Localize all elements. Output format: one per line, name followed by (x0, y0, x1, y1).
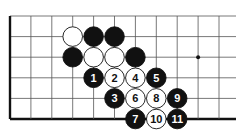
white-stone-icon (84, 47, 104, 67)
move-number: 10 (150, 113, 162, 125)
black-stone-icon (63, 47, 83, 67)
move-number: 5 (153, 72, 159, 84)
black-stone-icon (84, 27, 104, 47)
black-stone (105, 27, 125, 47)
white-stone-move-6: 6 (126, 89, 146, 109)
black-stone-move-9: 9 (167, 89, 187, 109)
black-stone-move-11: 11 (167, 109, 187, 129)
star-points (196, 55, 200, 59)
move-number: 1 (91, 72, 97, 84)
white-stone (84, 47, 104, 67)
move-number: 3 (111, 92, 117, 104)
white-stone-move-4: 4 (126, 68, 146, 88)
black-stone (84, 27, 104, 47)
black-stone-move-7: 7 (126, 109, 146, 129)
go-board: 1234567891011 (0, 0, 246, 137)
black-stone-move-1: 1 (84, 68, 104, 88)
white-stone-icon (63, 27, 83, 47)
black-stone-move-5: 5 (147, 68, 167, 88)
move-number: 9 (174, 92, 180, 104)
white-stone-move-10: 10 (147, 109, 167, 129)
black-stone-move-3: 3 (105, 89, 125, 109)
move-number: 8 (153, 92, 159, 104)
white-stone-move-8: 8 (147, 89, 167, 109)
move-number: 11 (171, 113, 183, 125)
white-stone (105, 47, 125, 67)
black-stone (126, 47, 146, 67)
black-stone (63, 47, 83, 67)
white-stone-move-2: 2 (105, 68, 125, 88)
move-number: 6 (132, 92, 138, 104)
white-stone-icon (105, 47, 125, 67)
black-stone-icon (105, 27, 125, 47)
move-number: 7 (132, 113, 138, 125)
star-point-icon (196, 55, 200, 59)
white-stone (63, 27, 83, 47)
move-number: 2 (111, 72, 117, 84)
move-number: 4 (132, 72, 139, 84)
black-stone-icon (126, 47, 146, 67)
